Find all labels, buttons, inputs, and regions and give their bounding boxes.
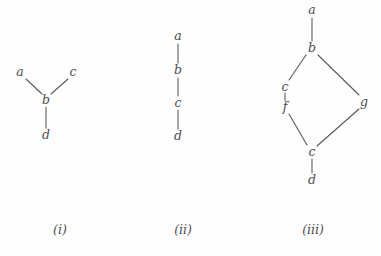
graph-edge-b-g bbox=[318, 55, 359, 95]
graph-node-a: a bbox=[308, 4, 315, 17]
graph-edge-b-c_left bbox=[289, 55, 306, 80]
panel-caption-iii: (iii) bbox=[302, 222, 324, 237]
diagram-panel-iii: abcfgcd (iii) bbox=[245, 0, 381, 256]
graph-edge-a-b bbox=[26, 79, 42, 94]
diagram-panel-i: acbd (i) bbox=[0, 0, 125, 256]
graph-node-b: b bbox=[308, 42, 316, 55]
graph-node-a: a bbox=[174, 30, 181, 43]
graph-node-c_left: c bbox=[281, 81, 288, 94]
figure-root: acbd (i) abcd (ii) abcfgcd (iii) bbox=[0, 0, 381, 256]
graph-node-g: g bbox=[360, 96, 368, 109]
graph-node-d: d bbox=[42, 129, 50, 142]
graph-node-c: c bbox=[69, 66, 76, 79]
graph-edge-c-b bbox=[51, 79, 68, 94]
graph-node-f: f bbox=[283, 101, 288, 114]
panel-caption-i: (i) bbox=[53, 222, 67, 237]
graph-edge-g-c_bot bbox=[317, 109, 359, 146]
graph-node-b: b bbox=[42, 94, 50, 107]
graph-node-c: c bbox=[174, 97, 181, 110]
graph-node-d: d bbox=[174, 130, 182, 143]
graph-node-d: d bbox=[308, 174, 316, 187]
graph-edges-ii bbox=[125, 0, 245, 256]
graph-node-b: b bbox=[174, 64, 182, 77]
graph-edges-i bbox=[0, 0, 125, 256]
graph-node-a: a bbox=[16, 66, 23, 79]
graph-edge-f-c_bot bbox=[289, 114, 307, 145]
graph-edges-iii bbox=[245, 0, 381, 256]
diagram-panel-ii: abcd (ii) bbox=[125, 0, 245, 256]
panel-caption-ii: (ii) bbox=[174, 222, 192, 237]
graph-node-c_bot: c bbox=[308, 146, 315, 159]
